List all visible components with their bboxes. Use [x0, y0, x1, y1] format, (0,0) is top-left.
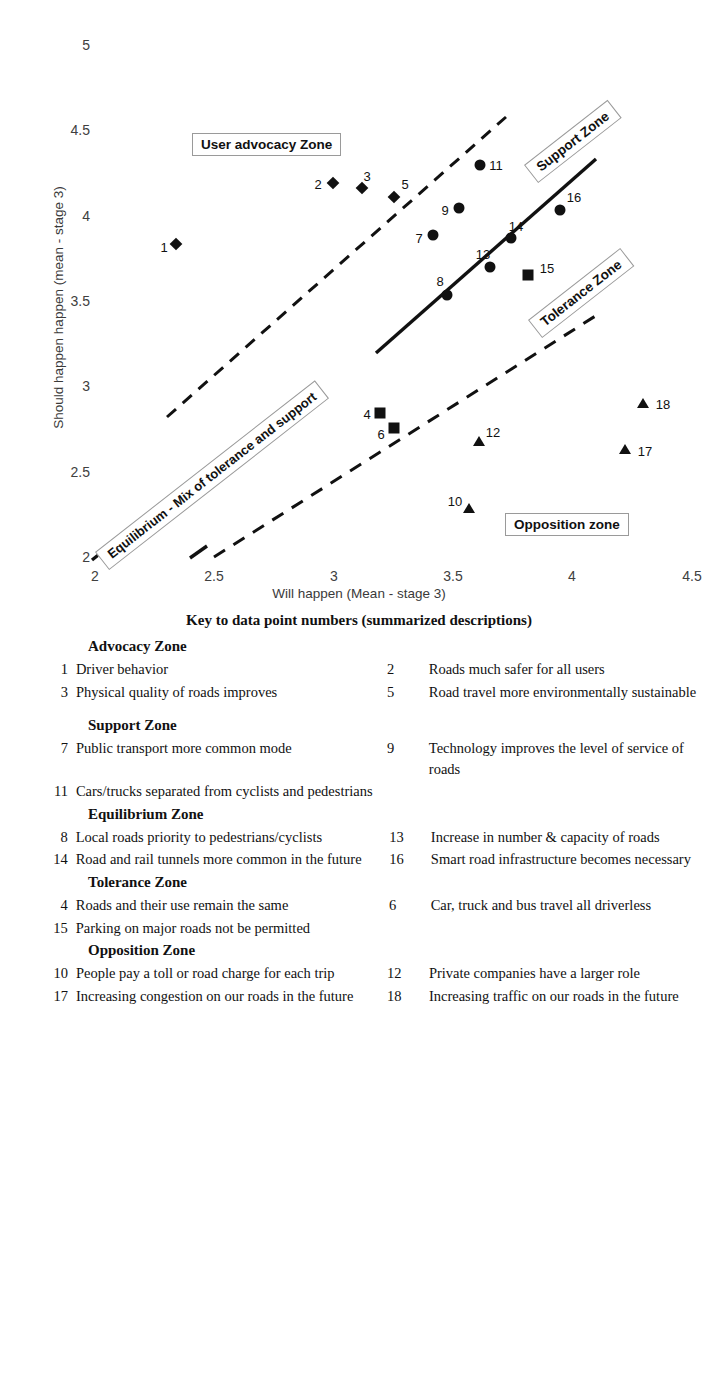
key-row: 15 Parking on major roads not be permitt… — [0, 917, 718, 940]
data-point-label: 17 — [638, 444, 652, 459]
key-desc-left: Increasing congestion on our roads in th… — [76, 985, 387, 1008]
key-row: 4 Roads and their use remain the same 6 … — [0, 894, 718, 917]
key-rows-equilibrium: 8 Local roads priority to pedestrians/cy… — [0, 826, 718, 871]
data-point-marker — [523, 270, 534, 281]
data-point-label: 3 — [363, 169, 370, 184]
key-row: 14 Road and rail tunnels more common in … — [0, 848, 718, 871]
key-rows-tolerance: 4 Roads and their use remain the same 6 … — [0, 894, 718, 939]
key-to-data-points: Key to data point numbers (summarized de… — [0, 612, 718, 1007]
key-num-left: 14 — [0, 848, 76, 871]
key-group-heading-opposition: Opposition Zone — [0, 939, 718, 962]
key-desc-left: Physical quality of roads improves — [76, 681, 387, 704]
key-num-right: 9 — [387, 737, 429, 780]
data-point-marker — [475, 160, 486, 171]
key-desc-left: Cars/trucks separated from cyclists and … — [76, 780, 387, 803]
key-desc-right: Technology improves the level of service… — [429, 737, 718, 780]
key-group-heading-support: Support Zone — [0, 703, 718, 737]
key-num-left: 1 — [0, 658, 76, 681]
data-point-marker — [442, 290, 453, 301]
key-num-right: 2 — [387, 658, 429, 681]
key-row: 3 Physical quality of roads improves 5 R… — [0, 681, 718, 704]
key-desc-left: Public transport more common mode — [76, 737, 387, 780]
key-desc-left: Road and rail tunnels more common in the… — [76, 848, 385, 871]
key-desc-right: Private companies have a larger role — [429, 962, 718, 985]
data-point-label: 6 — [377, 427, 384, 442]
data-point-marker — [463, 503, 475, 513]
key-group-heading-equilibrium: Equilibrium Zone — [0, 803, 718, 826]
key-group-heading-tolerance: Tolerance Zone — [0, 871, 718, 894]
data-point-label: 8 — [436, 274, 443, 289]
data-point-marker — [473, 436, 485, 446]
key-num-left: 11 — [0, 780, 76, 803]
data-point-label: 14 — [509, 219, 523, 234]
key-desc-right: Increasing traffic on our roads in the f… — [429, 985, 718, 1008]
key-num-left: 3 — [0, 681, 76, 704]
scatter-chart: Should happen happen (mean - stage 3) Wi… — [0, 0, 718, 608]
key-desc-right: Smart road infrastructure becomes necess… — [431, 848, 718, 871]
key-num-right: 13 — [385, 826, 431, 849]
key-desc-left: Local roads priority to pedestrians/cycl… — [76, 826, 385, 849]
data-point-label: 4 — [363, 407, 370, 422]
key-num-right: 6 — [385, 894, 431, 917]
key-row: 1 Driver behavior 2 Roads much safer for… — [0, 658, 718, 681]
key-desc-left: Roads and their use remain the same — [76, 894, 385, 917]
equilibrium-stub-line-2 — [190, 546, 207, 558]
key-num-right — [385, 917, 431, 940]
key-num-left: 7 — [0, 737, 76, 780]
upper-boundary-line — [167, 117, 506, 417]
key-num-right: 18 — [387, 985, 429, 1008]
zone-label-opposition: Opposition zone — [505, 513, 629, 536]
key-desc-right — [431, 917, 718, 940]
key-desc-right: Roads much safer for all users — [429, 658, 718, 681]
key-group-heading-advocacy: Advocacy Zone — [0, 635, 718, 658]
key-row: 10 People pay a toll or road charge for … — [0, 962, 718, 985]
data-point-label: 5 — [401, 177, 408, 192]
data-point-marker — [555, 205, 566, 216]
data-point-label: 12 — [486, 425, 500, 440]
key-num-right — [387, 780, 429, 803]
data-point-marker — [454, 203, 465, 214]
key-desc-right: Road travel more environmentally sustain… — [429, 681, 718, 704]
key-row: 8 Local roads priority to pedestrians/cy… — [0, 826, 718, 849]
key-title: Key to data point numbers (summarized de… — [0, 612, 718, 629]
key-rows-opposition: 10 People pay a toll or road charge for … — [0, 962, 718, 1007]
key-rows-support: 7 Public transport more common mode 9 Te… — [0, 737, 718, 803]
data-point-label: 1 — [160, 240, 167, 255]
data-point-marker — [506, 233, 517, 244]
data-point-marker — [485, 262, 496, 273]
key-desc-right: Car, truck and bus travel all driverless — [431, 894, 718, 917]
key-num-right: 16 — [385, 848, 431, 871]
key-num-left: 17 — [0, 985, 76, 1008]
data-point-label: 7 — [415, 231, 422, 246]
data-point-marker — [619, 444, 631, 454]
key-num-left: 10 — [0, 962, 76, 985]
data-point-marker — [637, 398, 649, 408]
data-point-label: 11 — [489, 158, 503, 173]
key-num-left: 8 — [0, 826, 76, 849]
key-desc-left: People pay a toll or road charge for eac… — [76, 962, 387, 985]
data-point-label: 2 — [314, 177, 321, 192]
key-desc-left: Parking on major roads not be permitted — [76, 917, 385, 940]
key-num-left: 15 — [0, 917, 76, 940]
key-num-left: 4 — [0, 894, 76, 917]
key-desc-right — [429, 780, 718, 803]
data-point-label: 13 — [476, 247, 490, 262]
key-row: 17 Increasing congestion on our roads in… — [0, 985, 718, 1008]
data-point-marker — [375, 408, 386, 419]
key-num-right: 12 — [387, 962, 429, 985]
key-row: 11 Cars/trucks separated from cyclists a… — [0, 780, 718, 803]
key-rows-advocacy: 1 Driver behavior 2 Roads much safer for… — [0, 658, 718, 703]
data-point-marker — [389, 423, 400, 434]
key-row: 7 Public transport more common mode 9 Te… — [0, 737, 718, 780]
data-point-label: 15 — [540, 261, 554, 276]
data-point-label: 16 — [567, 190, 581, 205]
key-desc-left: Driver behavior — [76, 658, 387, 681]
data-point-label: 9 — [441, 203, 448, 218]
data-point-label: 10 — [448, 494, 462, 509]
data-point-label: 18 — [656, 397, 670, 412]
data-point-marker — [428, 230, 439, 241]
key-num-right: 5 — [387, 681, 429, 704]
zone-label-user-advocacy: User advocacy Zone — [192, 133, 341, 156]
key-desc-right: Increase in number & capacity of roads — [431, 826, 718, 849]
